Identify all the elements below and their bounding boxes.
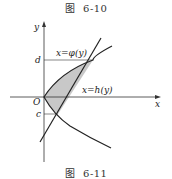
c-label: c xyxy=(36,109,41,119)
figure-caption-6-11: 图6-11 xyxy=(0,165,172,179)
d-label: d xyxy=(35,55,41,65)
x-axis-label: x xyxy=(155,99,160,109)
figure-number: 6-11 xyxy=(83,168,107,179)
origin-label: O xyxy=(33,97,41,107)
y-axis-label: y xyxy=(33,22,40,32)
y-axis-arrow-icon xyxy=(42,21,46,27)
figure-prefix: 图 xyxy=(65,168,76,179)
h-line-label: x=h(y) xyxy=(82,85,113,95)
phi-curve-label: x=φ(y) xyxy=(56,48,88,58)
region-diagram: y x O d c x=φ(y) x=h(y) xyxy=(0,0,172,179)
